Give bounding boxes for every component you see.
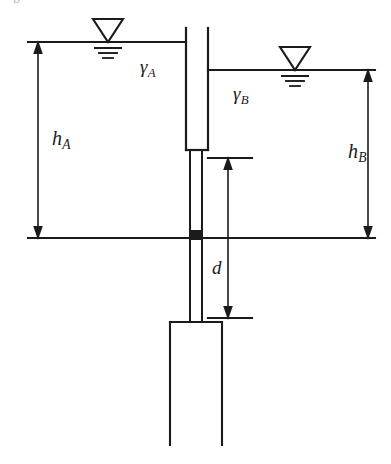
label-h-a: hA [52, 128, 70, 148]
gamma-b-symbol: γ [233, 83, 241, 104]
dimension-arrow-h-a [33, 40, 43, 240]
label-d: d [212, 258, 222, 277]
wall-lower-section [170, 322, 222, 445]
hydraulic-head-diagram: B [0, 0, 391, 464]
gamma-b-subscript: B [241, 92, 249, 107]
h-a-subscript: A [62, 137, 70, 152]
h-a-symbol: h [52, 127, 62, 149]
diagram-canvas [0, 0, 391, 464]
hinge-marker [191, 230, 201, 240]
h-b-subscript: B [358, 150, 366, 165]
water-table-symbol-right [280, 47, 310, 86]
gamma-a-symbol: γ [140, 56, 148, 77]
d-symbol: d [212, 257, 222, 278]
wall-upper-section [186, 28, 208, 150]
label-gamma-a: γA [140, 57, 155, 76]
water-table-symbol-left [93, 19, 123, 58]
label-gamma-b: γB [233, 84, 248, 103]
label-h-b: hB [348, 141, 366, 161]
gamma-a-subscript: A [148, 65, 156, 80]
h-b-symbol: h [348, 140, 358, 162]
